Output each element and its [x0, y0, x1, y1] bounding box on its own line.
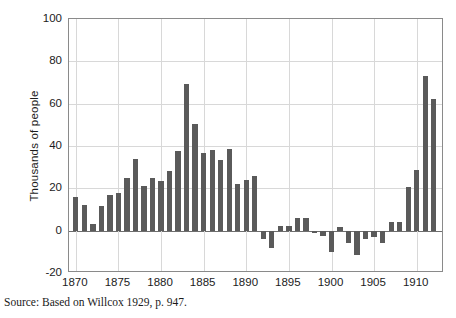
bar [158, 181, 163, 231]
bar [278, 226, 283, 230]
plot-inner [69, 19, 442, 271]
y-axis-tick-label: 0 [16, 224, 62, 236]
y-axis-tick-label: 80 [16, 54, 62, 66]
gridline-vertical [289, 19, 290, 271]
bar [423, 76, 428, 231]
bar [303, 218, 308, 231]
bar [337, 227, 342, 230]
figure-container: Thousands of people 100806040200-20 1870… [0, 0, 456, 318]
bar [414, 170, 419, 230]
bar [124, 178, 129, 231]
bar [175, 151, 180, 230]
gridline-vertical [161, 19, 162, 271]
bar [363, 231, 368, 239]
bar [431, 99, 436, 230]
bar [269, 231, 274, 248]
bar [286, 226, 291, 230]
bar [252, 176, 257, 231]
bar [295, 218, 300, 231]
bar [244, 180, 249, 231]
bar [380, 231, 385, 244]
y-axis-tick-label: 60 [16, 97, 62, 109]
y-axis-tick-label: 20 [16, 181, 62, 193]
bar [133, 159, 138, 231]
bar [116, 193, 121, 231]
bar [192, 124, 197, 231]
bar [99, 206, 104, 230]
gridline-vertical [118, 19, 119, 271]
bar [73, 197, 78, 231]
bar [235, 184, 240, 231]
bar [150, 178, 155, 231]
bar [141, 186, 146, 230]
bar [90, 224, 95, 230]
gridline-vertical [204, 19, 205, 271]
bar [227, 149, 232, 230]
gridline-horizontal [69, 61, 442, 62]
bar [201, 153, 206, 230]
gridline-vertical [76, 19, 77, 271]
x-axis-tick-label: 1910 [391, 276, 441, 288]
bar [397, 222, 402, 230]
bar [354, 231, 359, 255]
bar [184, 84, 189, 231]
bar [406, 187, 411, 230]
bar [389, 222, 394, 230]
bar [312, 231, 317, 233]
zero-axis-line [69, 231, 442, 232]
plot-area [68, 18, 443, 272]
bar [346, 231, 351, 244]
bar [82, 205, 87, 230]
source-note: Source: Based on Willcox 1929, p. 947. [4, 296, 187, 308]
bar [261, 231, 266, 239]
bar [210, 150, 215, 230]
bar [167, 171, 172, 230]
bar [329, 231, 334, 252]
gridline-vertical [246, 19, 247, 271]
gridline-horizontal [69, 146, 442, 147]
gridline-vertical [417, 19, 418, 271]
y-axis-tick-label: 40 [16, 139, 62, 151]
bar [218, 160, 223, 231]
bar [107, 195, 112, 231]
gridline-horizontal [69, 104, 442, 105]
bar [320, 231, 325, 236]
bar [371, 231, 376, 237]
y-axis-tick-label: 100 [16, 12, 62, 24]
